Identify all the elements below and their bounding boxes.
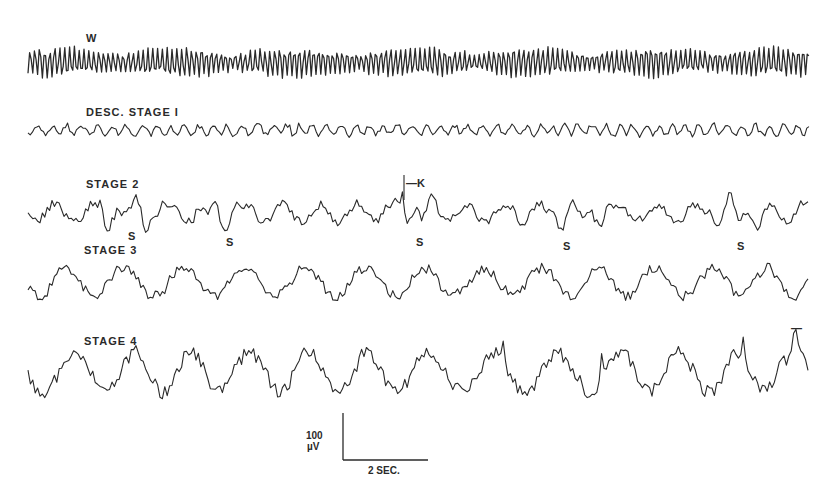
eeg-trace-stage4 (28, 329, 808, 398)
spindle-mark: S (226, 236, 233, 248)
trace-label-stage-4: STAGE 4 (84, 335, 137, 347)
scale-voltage-unit: µV (307, 441, 319, 452)
spindle-mark: S (737, 240, 744, 252)
scale-time-label: 2 SEC. (368, 465, 400, 476)
spindle-mark: S (563, 240, 570, 252)
eeg-trace-stage3 (28, 263, 808, 300)
stage-4-tick-mark: — (791, 322, 802, 334)
spindle-mark: S (128, 230, 135, 242)
eeg-figure: W DESC. STAGE I STAGE 2 STAGE 3 STAGE 4 … (0, 0, 836, 493)
eeg-trace-w (28, 46, 809, 79)
trace-label-stage-2: STAGE 2 (86, 178, 139, 190)
trace-label-desc-stage-1: DESC. STAGE I (86, 106, 179, 118)
trace-label-stage-3: STAGE 3 (84, 244, 137, 256)
spindle-mark: S (416, 236, 423, 248)
eeg-trace-stage1 (28, 123, 809, 138)
k-complex-label: —K (406, 177, 425, 189)
eeg-trace-stage2 (28, 192, 808, 233)
trace-label-wake: W (86, 32, 97, 44)
scale-voltage-value: 100 (306, 430, 323, 441)
